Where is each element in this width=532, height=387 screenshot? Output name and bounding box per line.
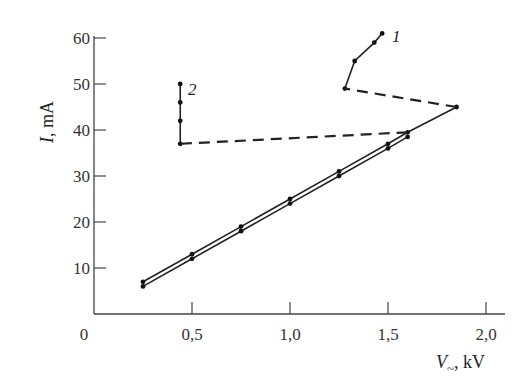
x-tick-label: 1,0 <box>279 325 300 344</box>
x-axis-title: V~, kV <box>436 352 485 376</box>
data-point <box>405 135 410 140</box>
data-point <box>352 59 357 64</box>
x-axis-title-unit: , kV <box>454 352 485 372</box>
data-point <box>337 174 342 179</box>
y-tick-label: 30 <box>73 167 90 186</box>
data-point <box>178 82 183 87</box>
data-point <box>178 118 183 123</box>
data-point <box>288 197 293 202</box>
x-tick-label: 0,5 <box>181 325 202 344</box>
data-point <box>141 279 146 284</box>
data-point <box>386 141 391 146</box>
y-tick-label: 20 <box>73 213 90 232</box>
data-point <box>141 284 146 289</box>
x-ticks: 0,51,01,52,0 <box>181 302 496 344</box>
data-point <box>178 100 183 105</box>
plot-series <box>141 31 459 289</box>
x-axis-title-subscript: ~ <box>447 361 454 376</box>
y-tick-label: 40 <box>73 121 90 140</box>
data-point <box>372 40 377 45</box>
curve-label-1: 1 <box>392 27 401 46</box>
chart: 102030405060 0,51,01,52,0 0 I, mA V~, kV… <box>0 0 532 387</box>
data-point <box>239 224 244 229</box>
data-point <box>239 229 244 234</box>
data-point <box>337 169 342 174</box>
series-1 <box>345 33 382 88</box>
y-tick-label: 60 <box>73 29 90 48</box>
y-axis-title-unit: , mA <box>37 101 57 137</box>
x-tick-label: 1,5 <box>377 325 398 344</box>
y-tick-label: 10 <box>73 259 90 278</box>
y-tick-label: 50 <box>73 75 90 94</box>
x-tick-label: 2,0 <box>475 325 496 344</box>
data-point <box>380 31 385 36</box>
y-ticks: 102030405060 <box>73 29 106 278</box>
origin-label: 0 <box>80 325 89 344</box>
y-axis-title: I, mA <box>37 101 57 144</box>
data-point <box>190 256 195 261</box>
series-transition-1 <box>345 89 457 107</box>
data-point <box>288 201 293 206</box>
svg-text:I, mA: I, mA <box>37 101 57 144</box>
curve-label-2: 2 <box>188 80 197 99</box>
data-point <box>190 252 195 257</box>
series-linear-lower <box>143 137 408 287</box>
data-point <box>386 146 391 151</box>
series-transition-2 <box>180 132 407 144</box>
